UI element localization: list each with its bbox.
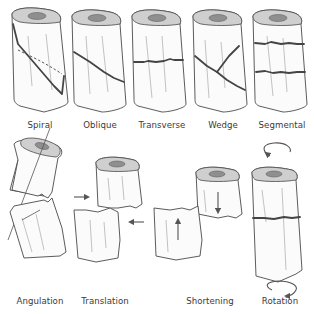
bone-segmental — [253, 10, 307, 112]
bone-oblique — [72, 10, 126, 112]
bone-shortening — [154, 167, 242, 260]
bone-angulation — [8, 128, 66, 258]
label-transverse: Transverse — [139, 120, 186, 130]
bone-transverse — [132, 10, 186, 112]
bone-spiral — [12, 8, 68, 112]
label-shortening: Shortening — [186, 296, 234, 306]
label-spiral: Spiral — [28, 120, 53, 130]
label-wedge: Wedge — [208, 120, 238, 130]
bone-translation — [74, 157, 144, 262]
label-angulation: Angulation — [17, 296, 64, 306]
label-segmental: Segmental — [259, 120, 306, 130]
label-oblique: Oblique — [83, 120, 117, 130]
label-rotation: Rotation — [262, 296, 298, 306]
bone-wedge — [193, 10, 247, 112]
bone-rotation — [252, 143, 302, 296]
fracture-diagram — [0, 0, 314, 314]
label-translation: Translation — [81, 296, 128, 306]
